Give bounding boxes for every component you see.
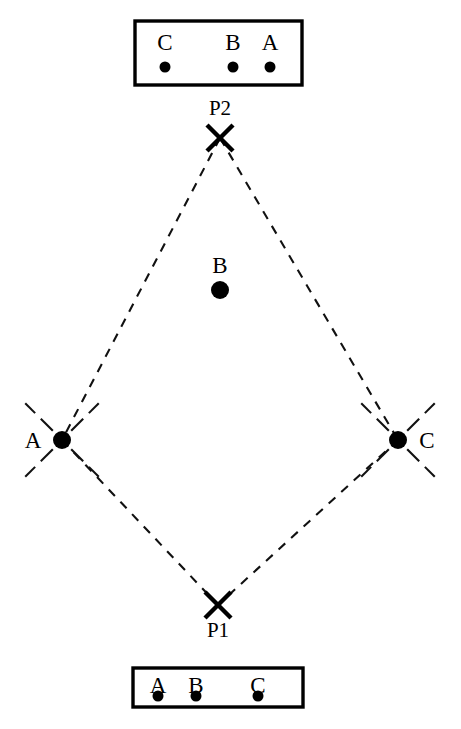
top-screen-label-b: B: [225, 31, 240, 54]
cross-dash-a-0: [25, 403, 35, 413]
top-screen-dot-b: [228, 62, 239, 73]
x-marker-p2: [207, 125, 233, 151]
bottom-screen-label-b: B: [188, 674, 203, 697]
ray-c-p1: [218, 440, 398, 605]
ray-group: [62, 138, 398, 605]
cross-dash-c-2: [377, 449, 389, 461]
top-screen-label-c: C: [157, 31, 172, 54]
cross-dash-c-3: [407, 419, 419, 431]
top-screen-dot-a: [265, 62, 276, 73]
ray-a-p1: [62, 440, 218, 605]
cross-dash-a-3: [89, 403, 99, 413]
cross-dash-c-1: [425, 467, 435, 477]
screen-dot-group: [153, 62, 276, 702]
pinhole-marker-group: [205, 125, 233, 618]
cross-dash-c-1: [407, 449, 419, 461]
pinhole-label-p1: P1: [207, 620, 229, 641]
cross-dash-c-3: [425, 403, 435, 413]
projection-diagram: C B A A B C P2 P1 A B C: [0, 0, 461, 729]
cross-dash-c-0: [361, 403, 371, 413]
bottom-screen-label-c: C: [250, 674, 265, 697]
object-label-a: A: [25, 429, 42, 452]
cross-dash-a-0: [41, 419, 53, 431]
cross-dash-a-1: [89, 467, 99, 477]
cross-dash-a-2: [25, 467, 35, 477]
object-point-b: [211, 281, 229, 299]
top-screen-label-a: A: [262, 31, 279, 54]
ray-p2-c: [220, 138, 398, 440]
bottom-screen-label-a: A: [150, 674, 167, 697]
x-marker-p1: [205, 592, 231, 618]
cross-dash-a-3: [71, 419, 83, 431]
pinhole-label-p2: P2: [209, 98, 231, 119]
object-point-a: [53, 431, 71, 449]
object-label-c: C: [419, 429, 434, 452]
ray-p2-a: [62, 138, 220, 440]
object-point-c: [389, 431, 407, 449]
cross-dash-a-2: [41, 449, 53, 461]
top-screen-dot-c: [160, 62, 171, 73]
cross-dash-a-1: [71, 449, 83, 461]
object-label-b: B: [212, 254, 227, 277]
